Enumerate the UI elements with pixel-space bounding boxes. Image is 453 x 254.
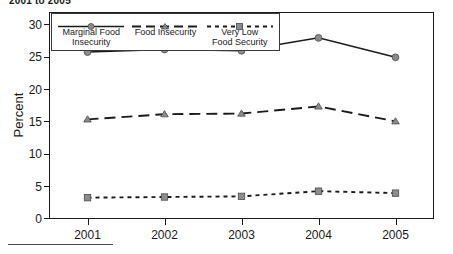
x-tick-label: 2003	[212, 228, 272, 243]
legend-key-dotted-square	[205, 17, 275, 26]
x-tick-mark	[88, 219, 89, 225]
legend-item-food-insecurity: Food Insecurity	[128, 17, 202, 37]
x-tick-label: 2005	[366, 228, 426, 243]
y-tick-label: 10	[5, 147, 49, 161]
legend-key-solid-circle	[56, 17, 126, 26]
series-3	[84, 188, 398, 201]
x-tick-mark	[396, 219, 397, 225]
chart-title: 2001 to 2005	[9, 0, 119, 6]
x-tick-mark	[319, 219, 320, 225]
x-tick-label: 2001	[58, 228, 118, 243]
x-tick-label: 2004	[289, 228, 349, 243]
y-axis: Percent 051015202530	[0, 12, 49, 219]
data-point	[315, 34, 322, 41]
series-2	[84, 103, 400, 124]
legend-item-marginal-food-insecurity: Marginal Food Insecurity	[54, 17, 128, 47]
data-point	[161, 194, 167, 200]
y-tick-label: 5	[5, 180, 49, 194]
chart-container: 2001 to 2005 Percent 051015202530 200120…	[0, 0, 453, 254]
x-axis: 20012002200320042005	[49, 219, 434, 253]
y-tick-label: 25	[5, 50, 49, 64]
data-point	[392, 190, 398, 196]
chart-legend: Marginal Food Insecurity Food Insecurity…	[51, 13, 280, 51]
y-tick-label: 20	[5, 83, 49, 97]
legend-key-dashed-triangle	[130, 17, 200, 26]
data-point	[238, 193, 244, 199]
y-tick-label: 30	[5, 18, 49, 32]
y-tick-label: 0	[5, 212, 49, 226]
x-tick-label: 2002	[135, 228, 195, 243]
x-tick-mark	[165, 219, 166, 225]
data-point	[392, 54, 399, 61]
footer-rule	[8, 244, 113, 245]
x-tick-mark	[242, 219, 243, 225]
data-point	[84, 194, 90, 200]
data-point	[315, 188, 321, 194]
legend-item-very-low-food-security: Very Low Food Security	[203, 17, 277, 47]
y-tick-label: 15	[5, 115, 49, 129]
